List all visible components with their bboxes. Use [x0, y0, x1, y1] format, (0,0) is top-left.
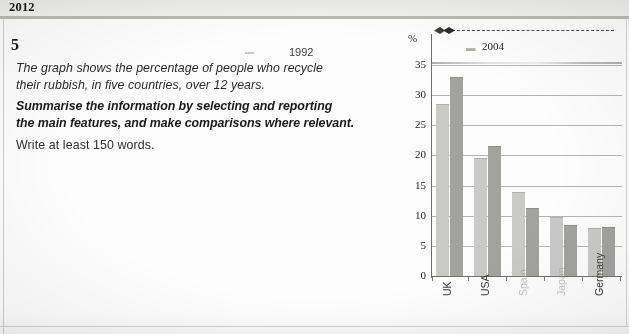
x-tick-3	[582, 276, 583, 281]
instruction-line-1: Summarise the information by selecting a…	[16, 98, 368, 115]
x-tick-2	[544, 276, 545, 281]
page-left-margin-rule	[3, 19, 4, 334]
prompt-line-1: The graph shows the percentage of people…	[16, 60, 368, 77]
x-tick-1	[506, 276, 507, 281]
bar-spain-1992	[512, 192, 525, 276]
gridline-35	[432, 65, 622, 66]
stray-legend-swatch-icon	[245, 52, 254, 54]
category-label-usa: USA	[479, 274, 491, 296]
y-axis-title: %	[408, 32, 417, 44]
legend-marker-icon	[434, 26, 456, 35]
scanned-exam-page: 2012 5 The graph shows the percentage of…	[0, 0, 629, 334]
recycling-bar-chart: % ▬ 2004 05101520253035 UKUSASpainJapanG…	[404, 24, 626, 326]
task-number: 5	[11, 36, 19, 54]
bar-uk-1992	[436, 104, 449, 276]
task-prompt-block: The graph shows the percentage of people…	[16, 60, 368, 154]
bar-uk-2004	[450, 77, 463, 276]
category-label-spain: Spain	[517, 269, 529, 296]
header-divider-rule	[0, 17, 629, 19]
category-label-germany: Germany	[593, 253, 605, 296]
category-label-uk: UK	[441, 281, 453, 296]
y-tick-label-0: 0	[404, 269, 426, 281]
scan-smudge-streak	[432, 62, 622, 64]
legend-swatch-2004-icon: ▬	[466, 42, 476, 53]
category-label-japan: Japan	[555, 267, 567, 296]
page-header-band: 2012	[0, 0, 629, 17]
legend-label-2004: 2004	[482, 40, 504, 52]
y-tick-label-30: 30	[404, 88, 426, 100]
y-tick-label-5: 5	[404, 239, 426, 251]
y-tick-label-10: 10	[404, 209, 426, 221]
page-header-year: 2012	[9, 0, 35, 15]
legend-dashed-rule	[452, 30, 614, 31]
bar-usa-1992	[474, 158, 487, 276]
instruction-line-2: the main features, and make comparisons …	[16, 115, 368, 132]
y-tick-label-15: 15	[404, 179, 426, 191]
y-tick-label-20: 20	[404, 148, 426, 160]
stray-legend-label-1992: 1992	[289, 46, 313, 58]
x-tick-origin	[432, 276, 433, 281]
page-right-margin-rule	[626, 19, 627, 326]
chart-legend: ▬ 2004	[434, 24, 624, 54]
prompt-line-2: their rubbish, in five countries, over 1…	[16, 77, 368, 94]
x-tick-0	[468, 276, 469, 281]
y-tick-label-35: 35	[404, 58, 426, 70]
y-tick-label-25: 25	[404, 118, 426, 130]
page-bottom-rule	[0, 326, 629, 327]
bar-usa-2004	[488, 146, 501, 276]
x-tick-4	[620, 276, 621, 281]
bar-spain-2004	[526, 208, 539, 276]
word-count-line: Write at least 150 words.	[16, 137, 368, 154]
